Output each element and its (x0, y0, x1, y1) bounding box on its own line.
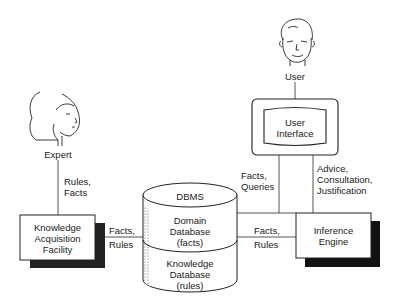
expert-system-diagram: Expert User Knowledge Acquisition Facili… (0, 0, 395, 305)
edge-label-expert-kaf: Rules, Facts (64, 176, 91, 198)
edge-label-dbms-ie: Facts, Rules (254, 224, 280, 252)
female-face-icon (30, 92, 80, 146)
male-face-icon (280, 19, 315, 66)
edge-label-ui-dbms: Facts, Queries (241, 170, 274, 192)
ui-label: User Interface (264, 117, 326, 139)
edge-label-ui-ie: Advice, Consultation, Justification (317, 163, 372, 196)
kaf-label: Knowledge Acquisition Facility (20, 222, 95, 255)
ie-label: Inference Engine (296, 225, 371, 247)
dbms-title: DBMS (150, 191, 230, 202)
user-label: User (275, 71, 315, 82)
expert-label: Expert (38, 149, 78, 160)
knowledge-database-label: Knowledge Database (rules) (150, 258, 230, 291)
edge-label-kaf-dbms: Facts, Rules (109, 224, 135, 252)
domain-database-label: Domain Database (facts) (150, 215, 230, 248)
